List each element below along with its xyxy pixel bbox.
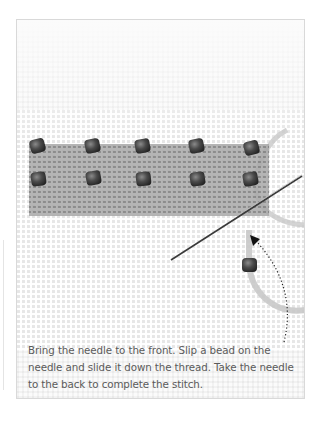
loose-bead [242,258,257,272]
instruction-caption: Bring the needle to the front. Slip a be… [28,342,298,393]
instruction-figure: Bring the needle to the front. Slip a be… [16,19,305,399]
page-edge-line [3,240,4,390]
